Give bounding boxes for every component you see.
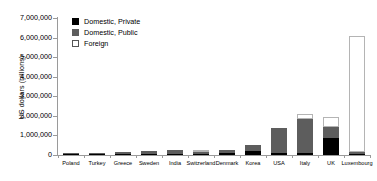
- bar-group: [349, 36, 365, 155]
- legend-swatch-domestic-private: [72, 18, 79, 25]
- x-axis-tick-mark: [84, 155, 85, 158]
- bar-segment: [115, 154, 131, 155]
- bar-group: [245, 145, 261, 155]
- legend-swatch-foreign: [72, 40, 79, 47]
- bar-segment: [323, 138, 339, 155]
- y-axis-tick-mark: [53, 96, 57, 97]
- x-axis-tick-label: UK: [327, 160, 335, 166]
- y-axis-tick-label: 3,000,000: [20, 91, 52, 100]
- bar-segment: [297, 119, 313, 153]
- x-axis-tick-label: Poland: [62, 160, 79, 166]
- legend-item: Domestic, Public: [72, 27, 140, 38]
- bar-segment: [63, 154, 79, 155]
- bar-segment: [323, 117, 339, 127]
- bar-group: [219, 150, 235, 155]
- bar-segment: [271, 128, 287, 153]
- x-axis-tick-mark: [58, 155, 59, 158]
- y-axis-tick-mark: [53, 18, 57, 19]
- chart-legend: Domestic, PrivateDomestic, PublicForeign: [72, 16, 140, 49]
- x-axis-tick-mark: [188, 155, 189, 158]
- y-axis-tick-label: 7,000,000: [20, 13, 52, 22]
- legend-swatch-domestic-public: [72, 29, 79, 36]
- y-axis-tick-label: 4,000,000: [20, 72, 52, 81]
- bar-group: [89, 153, 105, 155]
- x-axis-tick-mark: [292, 155, 293, 158]
- y-axis-tick-label: 1,000,000: [20, 130, 52, 139]
- bar-group: [167, 150, 183, 155]
- x-axis-tick-label: Italy: [300, 160, 310, 166]
- y-axis-tick-label: 0: [48, 150, 52, 159]
- bar-group: [141, 151, 157, 155]
- legend-item: Domestic, Private: [72, 16, 140, 27]
- x-axis-tick-mark: [318, 155, 319, 158]
- x-axis-tick-mark: [370, 155, 371, 158]
- bar-group: [193, 150, 209, 155]
- x-axis-tick-label: Switzerland: [187, 160, 216, 166]
- x-axis-tick-label: India: [169, 160, 181, 166]
- bar-segment: [219, 153, 235, 155]
- bar-segment: [245, 151, 261, 155]
- x-axis-tick-label: Sweden: [139, 160, 159, 166]
- bar-segment: [297, 153, 313, 155]
- x-axis-tick-mark: [266, 155, 267, 158]
- x-axis-tick-label: Korea: [246, 160, 261, 166]
- bar-group: [271, 128, 287, 155]
- legend-item-label: Foreign: [84, 39, 108, 48]
- x-axis-tick-mark: [136, 155, 137, 158]
- x-axis-tick-mark: [240, 155, 241, 158]
- y-axis-tick-mark: [53, 77, 57, 78]
- y-axis-tick-label: 5,000,000: [20, 52, 52, 61]
- legend-item-label: Domestic, Private: [84, 17, 140, 26]
- x-axis-tick-label: USA: [273, 160, 285, 166]
- x-axis-tick-mark: [214, 155, 215, 158]
- bar-group: [63, 153, 79, 155]
- y-axis-tick-mark: [53, 116, 57, 117]
- bar-segment: [349, 36, 365, 152]
- y-axis-tick-mark: [53, 57, 57, 58]
- legend-item-label: Domestic, Public: [84, 28, 138, 37]
- bar-group: [115, 152, 131, 155]
- bar-segment: [167, 154, 183, 155]
- y-axis-tick-mark: [53, 155, 57, 156]
- bar-segment: [271, 153, 287, 155]
- x-axis-tick-label: Luxembourg: [341, 160, 372, 166]
- bar-group: [297, 114, 313, 155]
- x-axis-tick-mark: [344, 155, 345, 158]
- bar-group: [323, 117, 339, 155]
- bar-segment: [141, 154, 157, 155]
- x-axis-tick-label: Greece: [114, 160, 132, 166]
- bar-segment: [193, 154, 209, 155]
- x-axis-tick-label: Turkey: [89, 160, 106, 166]
- x-axis-tick-mark: [110, 155, 111, 158]
- y-axis-tick-label: 6,000,000: [20, 33, 52, 42]
- x-axis-tick-label: Denmark: [216, 160, 239, 166]
- bar-chart: US dollars (billions) 01,000,0002,000,00…: [0, 0, 377, 181]
- bar-segment: [323, 127, 339, 138]
- bar-segment: [349, 154, 365, 155]
- y-axis-tick-mark: [53, 38, 57, 39]
- bar-segment: [89, 154, 105, 155]
- y-axis-tick-label: 2,000,000: [20, 111, 52, 120]
- legend-item: Foreign: [72, 38, 140, 49]
- y-axis-tick-mark: [53, 135, 57, 136]
- x-axis-tick-mark: [162, 155, 163, 158]
